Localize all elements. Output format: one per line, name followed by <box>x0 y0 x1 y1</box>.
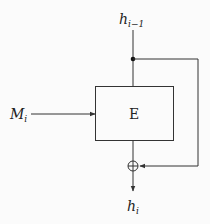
feedforward-line <box>133 59 198 166</box>
cipher-block-label: E <box>129 106 139 122</box>
output-label: hi <box>127 198 139 216</box>
input-chain-label: hi−1 <box>119 11 144 29</box>
diagram-canvas: hi−1 E Mi hi <box>0 0 210 224</box>
xor-icon <box>128 161 138 171</box>
message-label: Mi <box>9 106 27 124</box>
